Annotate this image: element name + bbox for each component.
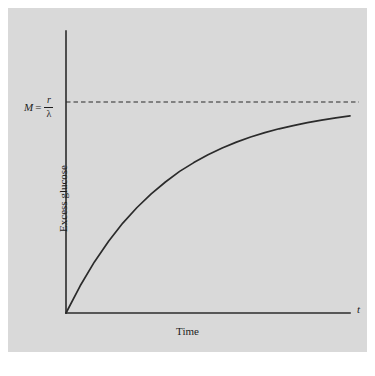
fraction-denominator: λ	[44, 109, 53, 120]
asymptote-symbol: M	[24, 102, 33, 113]
asymptote-label: M = r λ	[24, 94, 53, 120]
fraction-numerator: r	[45, 95, 53, 106]
time-variable-label: t	[357, 304, 360, 315]
excess-glucose-curve	[66, 116, 350, 313]
y-axis-title: Excess glucose	[58, 98, 69, 165]
figure-container: Excess glucose Time t M = r λ	[0, 0, 375, 376]
asymptote-fraction: r λ	[44, 95, 53, 119]
equals-sign: =	[35, 102, 41, 113]
x-axis-title: Time	[8, 326, 367, 337]
chart-panel: Excess glucose Time t M = r λ	[8, 8, 367, 352]
y-axis-title-text: Excess glucose	[58, 165, 69, 232]
